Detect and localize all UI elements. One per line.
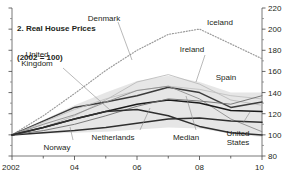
series-annotation-united-states: United States <box>226 129 249 147</box>
series-annotation-netherlands: Netherlands <box>91 133 134 142</box>
x-tick-label: 10 <box>255 163 264 172</box>
y-tick-label: 160 <box>268 67 282 76</box>
series-annotation-ireland: Ireland <box>180 45 204 54</box>
series-annotation-norway: Norway <box>43 143 70 152</box>
annotation-leader-line <box>118 22 132 60</box>
series-annotation-spain: Spain <box>216 73 236 82</box>
series-annotation-united-kingdom: United Kingdom <box>21 50 53 68</box>
y-tick-label: 140 <box>268 89 282 98</box>
chart-figure: 2. Real House Prices (2002 = 100) 220200… <box>0 0 300 178</box>
y-tick-label: 120 <box>268 110 282 119</box>
series-annotation-iceland: Iceland <box>207 18 233 27</box>
x-tick-label: 08 <box>195 163 204 172</box>
x-tick-label: 2002 <box>2 163 20 172</box>
x-tick-label: 04 <box>70 163 79 172</box>
series-annotation-denmark: Denmark <box>88 14 120 23</box>
y-tick-label: 180 <box>268 46 282 55</box>
y-tick-label: 220 <box>268 4 282 13</box>
x-tick-label: 06 <box>133 163 142 172</box>
y-tick-label: 100 <box>268 131 282 140</box>
y-tick-label: 200 <box>268 25 282 34</box>
y-tick-label: 80 <box>268 152 277 161</box>
series-annotation-median: Median <box>173 133 199 142</box>
annotation-leader-line <box>196 55 205 82</box>
